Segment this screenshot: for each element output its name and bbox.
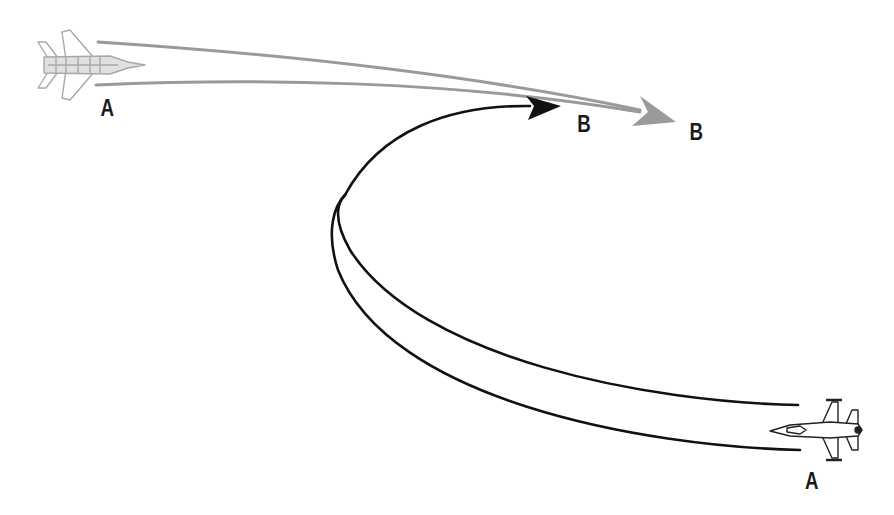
black-end-label: B: [577, 111, 591, 138]
black-fighter-jet-icon: [770, 400, 862, 460]
black-start-label: A: [805, 468, 819, 495]
gray-start-label: A: [101, 95, 115, 122]
black-flight-path: [332, 106, 800, 450]
gray-fighter-jet-icon: [38, 30, 145, 100]
gray-flight-path: [96, 42, 640, 112]
maneuver-diagram: A B B A: [0, 0, 894, 515]
gray-end-label: B: [690, 119, 704, 146]
